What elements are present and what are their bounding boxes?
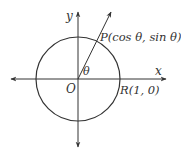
unit-circle-diagram: y x O θ P(cos θ, sin θ) R(1, 0) bbox=[0, 0, 181, 156]
x-axis-label: x bbox=[155, 64, 162, 78]
y-axis-label: y bbox=[65, 9, 73, 23]
angle-label: θ bbox=[83, 65, 90, 78]
point-r-label: R(1, 0) bbox=[119, 83, 160, 97]
origin-label: O bbox=[66, 82, 76, 96]
point-p-label: P(cos θ, sin θ) bbox=[99, 30, 181, 44]
